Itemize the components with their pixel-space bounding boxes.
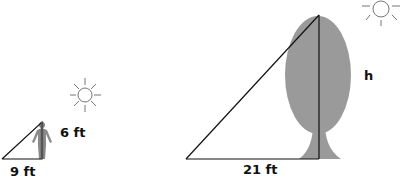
person-height-label: 6 ft bbox=[60, 126, 85, 139]
tree-shadow-label: 21 ft bbox=[243, 163, 278, 176]
tree-figure bbox=[285, 16, 351, 159]
tree-height-label: h bbox=[364, 69, 373, 82]
person-shadow-label: 9 ft bbox=[10, 165, 35, 178]
diagram-canvas bbox=[0, 0, 408, 179]
person-shadow-triangle bbox=[2, 122, 42, 159]
sun-icon-small bbox=[70, 78, 101, 112]
similar-triangles-diagram: 6 ft 9 ft 21 ft h bbox=[0, 0, 408, 179]
sun-icon-large bbox=[362, 1, 400, 26]
